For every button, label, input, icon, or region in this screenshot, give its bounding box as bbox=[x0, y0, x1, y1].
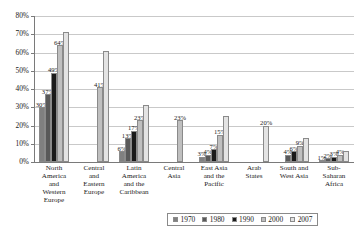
bar-group: 6%13%17%23% bbox=[114, 16, 154, 162]
y-axis-tick-label: 20% bbox=[15, 122, 29, 130]
legend-swatch-icon bbox=[290, 217, 295, 222]
y-axis-tick-label: 70% bbox=[15, 30, 29, 38]
bar bbox=[103, 51, 108, 162]
legend-label: 2007 bbox=[298, 216, 313, 224]
y-axis-tick-label: 30% bbox=[15, 103, 29, 111]
bar: 3% bbox=[199, 157, 204, 162]
bar-group: 20% bbox=[234, 16, 274, 162]
legend-swatch-icon bbox=[261, 217, 266, 222]
bar: 23% bbox=[177, 120, 182, 162]
bar: 6% bbox=[291, 151, 296, 162]
bar: 13% bbox=[125, 138, 130, 162]
bar bbox=[143, 105, 148, 162]
legend-item[interactable]: 2000 bbox=[261, 216, 283, 224]
y-axis-tick-label: 60% bbox=[15, 49, 29, 57]
legend-swatch-icon bbox=[232, 217, 237, 222]
bar bbox=[343, 151, 348, 162]
x-axis-category-label: CentralandEasternEurope bbox=[74, 164, 114, 204]
bar-group: 4%6%9% bbox=[274, 16, 314, 162]
bar bbox=[303, 138, 308, 162]
bar: 64% bbox=[57, 45, 62, 162]
bar: 23% bbox=[137, 120, 142, 162]
y-axis-tick-label: 0% bbox=[19, 158, 29, 166]
bar bbox=[223, 116, 228, 162]
bar: 2% bbox=[325, 158, 330, 162]
bar-value-label: 23% bbox=[174, 114, 186, 121]
bar: 4% bbox=[205, 155, 210, 162]
bar: 4% bbox=[337, 155, 342, 162]
x-axis-category-label: South andWest Asia bbox=[274, 164, 314, 204]
bar: 41% bbox=[97, 87, 102, 162]
bar: 30% bbox=[39, 107, 44, 162]
legend-label: 2000 bbox=[268, 216, 283, 224]
bar-group: 1%2%3%4% bbox=[314, 16, 354, 162]
bar: 3% bbox=[331, 157, 336, 162]
bar: 37% bbox=[45, 94, 50, 162]
bar: 1% bbox=[319, 160, 324, 162]
legend-swatch-icon bbox=[173, 217, 178, 222]
x-axis-categories: NorthAmericaandWesternEuropeCentralandEa… bbox=[34, 164, 354, 204]
y-axis-tick-label: 10% bbox=[15, 140, 29, 148]
bar-group: 23% bbox=[154, 16, 194, 162]
bar: 49% bbox=[51, 73, 56, 162]
bar-group: 41% bbox=[74, 16, 114, 162]
bar: 17% bbox=[131, 131, 136, 162]
bar bbox=[63, 32, 68, 162]
bar-value-label: 20% bbox=[260, 119, 272, 126]
y-axis-tick-label: 50% bbox=[15, 67, 29, 75]
chart-legend: 19701980199020002007 bbox=[167, 213, 318, 226]
y-axis-tick-label: 80% bbox=[15, 12, 29, 20]
bar-group: 30%37%49%64% bbox=[34, 16, 74, 162]
x-axis-category-label: LatinAmericaand theCaribbean bbox=[114, 164, 154, 204]
bar: 6% bbox=[119, 151, 124, 162]
bar: 15% bbox=[217, 135, 222, 162]
bar-groups: 30%37%49%64%41%6%13%17%23%23%3%4%7%15%20… bbox=[34, 16, 354, 162]
x-axis-category-label: East Asiaand thePacific bbox=[194, 164, 234, 204]
x-axis-line bbox=[34, 162, 354, 163]
y-axis: 0%10%20%30%40%50%60%70%80% bbox=[0, 16, 32, 162]
x-axis-category-label: Sub-SaharanAfrica bbox=[314, 164, 354, 204]
bar-chart: 0%10%20%30%40%50%60%70%80% 30%37%49%64%4… bbox=[0, 0, 361, 240]
legend-label: 1990 bbox=[239, 216, 254, 224]
bar: 9% bbox=[297, 146, 302, 162]
bar: 7% bbox=[211, 149, 216, 162]
legend-label: 1970 bbox=[181, 216, 196, 224]
x-axis-category-label: NorthAmericaandWesternEurope bbox=[34, 164, 74, 204]
y-axis-tick-label: 40% bbox=[15, 85, 29, 93]
x-axis-category-label: CentralAsia bbox=[154, 164, 194, 204]
legend-item[interactable]: 1990 bbox=[232, 216, 254, 224]
bar: 20% bbox=[263, 126, 268, 163]
x-axis-category-label: ArabStates bbox=[234, 164, 274, 204]
legend-item[interactable]: 1970 bbox=[173, 216, 195, 224]
legend-item[interactable]: 1980 bbox=[202, 216, 224, 224]
bar: 4% bbox=[285, 155, 290, 162]
legend-item[interactable]: 2007 bbox=[290, 216, 312, 224]
legend-swatch-icon bbox=[202, 217, 207, 222]
legend-label: 1980 bbox=[210, 216, 225, 224]
bar-group: 3%4%7%15% bbox=[194, 16, 234, 162]
